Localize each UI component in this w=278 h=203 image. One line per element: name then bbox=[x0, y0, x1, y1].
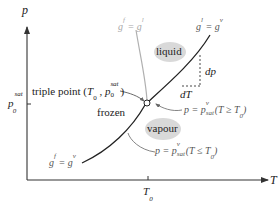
sub-rhs: g bbox=[68, 157, 73, 168]
upper-psat-annotation: p = pvsat(T ≥ T0) bbox=[184, 105, 246, 115]
fusion-curve bbox=[136, 30, 147, 101]
tp-T-sub: 0 bbox=[93, 94, 97, 102]
upper-lhs: p = p bbox=[184, 104, 206, 115]
sub-rhs-sup: v bbox=[73, 152, 76, 160]
upper-cond-sub: 0 bbox=[240, 112, 244, 120]
tp-sep: , bbox=[97, 85, 105, 97]
vapour-label: vapour bbox=[147, 123, 178, 134]
phase-diagram: p T psat0 T0 gf = gl gl = gv gf = gv liq… bbox=[0, 0, 278, 203]
dT-label: dT bbox=[180, 89, 192, 100]
sub-eq: = bbox=[56, 157, 68, 168]
x-axis-label: T bbox=[270, 174, 277, 186]
lower-cond: T ≤ T bbox=[189, 145, 210, 156]
lower-close: ) bbox=[214, 145, 217, 156]
sublimation-curve-label: gf = gv bbox=[49, 158, 76, 168]
liquid-label: liquid bbox=[156, 46, 182, 57]
fusion-rhs-sup: l bbox=[142, 16, 144, 24]
y-tick-label-psat: psat0 bbox=[8, 98, 26, 109]
vap-eq: = bbox=[203, 21, 215, 32]
lower-psat-annotation: p = pvsat(T ≤ T0) bbox=[155, 146, 217, 156]
vaporization-curve-label: gl = gv bbox=[196, 22, 223, 32]
fusion-eq: = bbox=[125, 21, 137, 32]
x-tick-label-t0: T0 bbox=[143, 186, 153, 197]
fusion-lhs-sup: f bbox=[123, 16, 125, 24]
tp-text: triple point ( bbox=[32, 85, 87, 97]
frozen-label: frozen bbox=[97, 107, 125, 118]
triple-point-label: triple point (T0 , psat0) bbox=[32, 86, 124, 97]
tp-close: ) bbox=[120, 85, 124, 97]
vap-lhs-sup: l bbox=[201, 16, 203, 24]
upper-cond: T ≥ T bbox=[218, 104, 239, 115]
sub-lhs-sup: f bbox=[54, 152, 56, 160]
fusion-rhs: g bbox=[137, 21, 142, 32]
vap-rhs: g bbox=[215, 21, 220, 32]
upper-close: ) bbox=[243, 104, 246, 115]
lower-lhs: p = p bbox=[155, 145, 177, 156]
lower-cond-sub: 0 bbox=[211, 153, 215, 161]
dp-label: dp bbox=[205, 66, 216, 77]
vap-rhs-sup: v bbox=[220, 16, 223, 24]
fusion-curve-label: gf = gl bbox=[118, 22, 144, 32]
upper-annotation-leader bbox=[156, 104, 182, 111]
triple-point-marker bbox=[144, 100, 150, 106]
y-axis-label: p bbox=[22, 4, 28, 16]
